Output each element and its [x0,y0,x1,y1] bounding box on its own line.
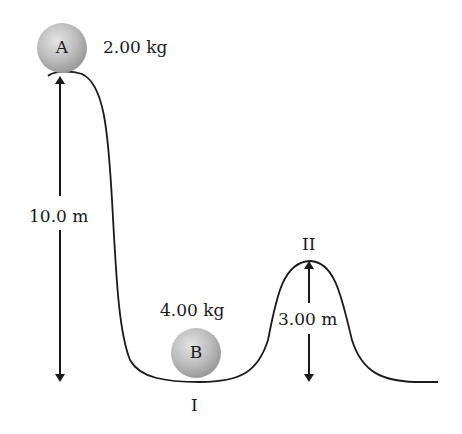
point-label-hump: II [302,236,315,253]
track-curve [48,72,438,382]
diagram-canvas: A 2.00 kg B 4.00 kg 10.0 m 3.00 m I II [0,0,462,434]
ball-a-mass: 2.00 kg [103,39,167,56]
ball-b-label: B [181,344,211,361]
ball-b-mass: 4.00 kg [160,302,224,319]
height-label-left: 10.0 m [29,208,88,225]
ball-a-label: A [47,39,77,56]
point-label-valley: I [191,397,198,414]
height-label-hump: 3.00 m [278,311,337,328]
